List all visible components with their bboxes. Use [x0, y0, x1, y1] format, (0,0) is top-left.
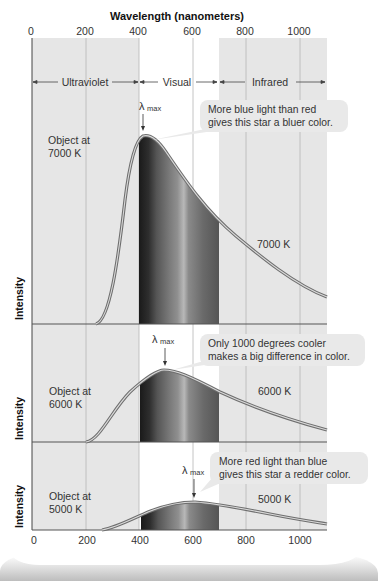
svg-text:400: 400 [129, 25, 147, 37]
curve-label-5000: 5000 K [258, 493, 291, 505]
object-temp-7000: 7000 K [48, 147, 81, 159]
svg-text:max: max [147, 104, 161, 113]
region-label-visual: Visual [163, 76, 191, 88]
svg-text:gives this star a bluer color.: gives this star a bluer color. [208, 117, 333, 128]
svg-text:gives this star a redder color: gives this star a redder color. [219, 469, 351, 480]
callout-panel2: Only 1000 degrees cooler makes a big dif… [172, 334, 365, 370]
svg-text:max: max [190, 468, 204, 477]
region-label-uv: Ultraviolet [62, 76, 109, 88]
svg-text:max: max [160, 337, 174, 346]
svg-text:λ: λ [152, 333, 158, 345]
svg-text:More red light than blue: More red light than blue [219, 456, 327, 467]
figure-frame: Ultraviolet Visual Infrared Wavelength (… [0, 0, 378, 581]
object-temp-6000: 6000 K [49, 398, 82, 410]
object-temp-5000: 5000 K [49, 503, 82, 515]
svg-text:0: 0 [28, 25, 34, 37]
object-label-5000: Object at [49, 490, 91, 502]
y-label-panel1: Intensity [13, 277, 25, 320]
curve-label-7000: 7000 K [257, 238, 290, 250]
y-label-panel3: Intensity [13, 485, 25, 528]
svg-text:800: 800 [236, 25, 254, 37]
page-edge [10, 545, 360, 565]
region-label-ir: Infrared [252, 76, 288, 88]
object-label-6000: Object at [49, 385, 91, 397]
blackbody-chart: Ultraviolet Visual Infrared Wavelength (… [0, 0, 378, 581]
svg-text:1000: 1000 [287, 25, 311, 37]
svg-text:λ: λ [139, 100, 145, 112]
top-axis-title: Wavelength (nanometers) [110, 10, 244, 22]
uv-region [32, 38, 139, 530]
y-label-panel2: Intensity [13, 397, 25, 440]
top-axis-ticks: 0 200 400 600 800 1000 [28, 25, 311, 37]
svg-text:λ: λ [182, 464, 188, 476]
object-label-7000: Object at [48, 134, 90, 146]
svg-text:makes a big difference in colo: makes a big difference in color. [208, 351, 350, 362]
svg-text:More blue light than red: More blue light than red [208, 104, 316, 115]
svg-text:Only 1000 degrees cooler: Only 1000 degrees cooler [208, 338, 326, 349]
svg-text:600: 600 [183, 25, 201, 37]
curve-label-6000: 6000 K [258, 385, 291, 397]
svg-text:200: 200 [76, 25, 94, 37]
